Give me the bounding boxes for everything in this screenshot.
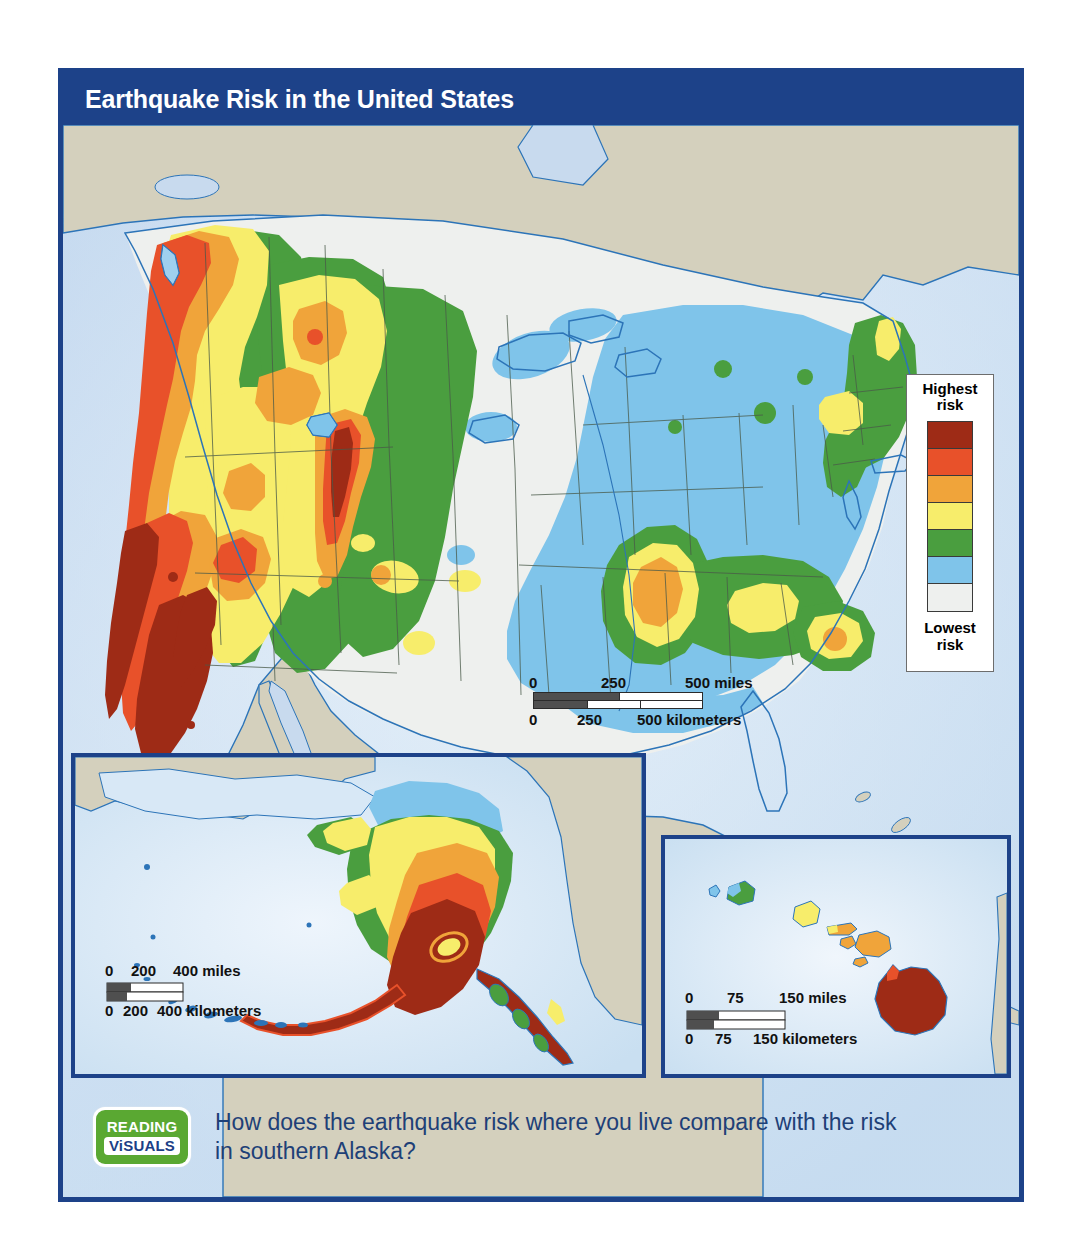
figure-title: Earthquake Risk in the United States (63, 85, 514, 114)
main-scale-bar: 0 250 500 miles 0 250 500 kilometers (529, 674, 779, 729)
alaska-inset: 0 200 400 miles 0 200 400 kilometers (71, 753, 646, 1078)
reading-visuals-band: READING ViSUALS How does the earthquake … (71, 1088, 1011, 1186)
alaska-inset-svg (75, 757, 642, 1074)
legend-swatch-lowest (928, 584, 972, 611)
reading-visuals-badge-inner: READING ViSUALS (96, 1110, 188, 1164)
main-scale-miles-labels: 0 250 500 miles (529, 674, 779, 692)
legend-swatch-highest (928, 422, 972, 449)
alaska-scale-miles-labels: 0 200 400 miles (105, 962, 285, 980)
figure-page: Earthquake Risk in the United States (0, 0, 1082, 1259)
reading-visuals-badge: READING ViSUALS (93, 1107, 191, 1167)
legend-swatch-high (928, 476, 972, 503)
legend-swatch-low (928, 557, 972, 584)
risk-legend: Highest risk Lowest risk (906, 374, 994, 672)
lake-shape (155, 175, 219, 199)
hawaii-inset: 0 75 150 miles 0 75 150 kilometers (661, 835, 1011, 1078)
reading-visuals-question: How does the earthquake risk where you l… (215, 1108, 915, 1167)
badge-visuals-label: ViSUALS (104, 1137, 180, 1155)
alaska-scale-km-labels: 0 200 400 kilometers (105, 1002, 285, 1020)
main-scale-km-bar (533, 700, 703, 709)
legend-swatch-column (927, 421, 973, 612)
figure-frame: Earthquake Risk in the United States (58, 68, 1024, 1202)
legend-lowest-label: Lowest risk (924, 620, 976, 652)
hawaii-scale-km-labels: 0 75 150 kilometers (685, 1030, 875, 1048)
island-maui (855, 931, 891, 957)
legend-swatch-low-moderate (928, 530, 972, 557)
legend-swatch-moderate (928, 503, 972, 530)
main-scale-km-labels: 0 250 500 kilometers (529, 711, 779, 729)
alaska-scale-bar: 0 200 400 miles 0 200 400 kilometers (105, 962, 285, 1020)
hawaii-scale-bar: 0 75 150 miles 0 75 150 kilometers (685, 989, 875, 1048)
legend-swatch-very-high (928, 449, 972, 476)
legend-highest-label: Highest risk (922, 381, 977, 413)
badge-reading-label: READING (107, 1119, 178, 1134)
hawaii-scale-miles-labels: 0 75 150 miles (685, 989, 875, 1007)
figure-title-bar: Earthquake Risk in the United States (63, 73, 1019, 125)
